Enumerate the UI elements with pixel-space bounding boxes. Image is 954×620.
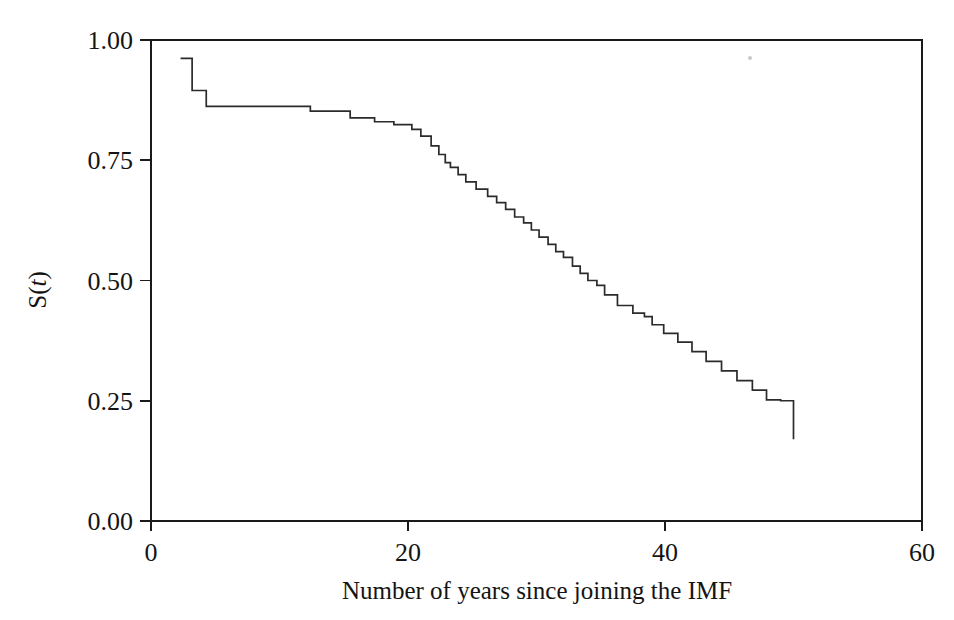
x-axis-ticks: 0204060 xyxy=(145,521,936,567)
svg-text:S(t): S(t) xyxy=(24,271,52,309)
x-tick-label: 20 xyxy=(395,538,421,567)
y-tick-label: 1.00 xyxy=(88,26,134,55)
y-axis-ticks: 0.000.250.500.751.00 xyxy=(88,26,152,536)
plot-frame xyxy=(151,40,922,521)
y-tick-label: 0.00 xyxy=(88,507,134,536)
y-tick-label: 0.50 xyxy=(88,267,134,296)
axes-box xyxy=(151,40,922,521)
x-tick-label: 40 xyxy=(652,538,678,567)
x-axis-title: Number of years since joining the IMF xyxy=(342,577,732,604)
y-axis-title-prefix: S( xyxy=(24,287,52,309)
y-tick-label: 0.75 xyxy=(88,146,134,175)
survival-step-curve xyxy=(181,58,794,439)
y-axis-title-suffix: ) xyxy=(24,271,52,279)
x-tick-label: 0 xyxy=(145,538,158,567)
scan-artifact-speck xyxy=(748,56,752,60)
figure-canvas: 0.000.250.500.751.00 0204060 S(t) Number… xyxy=(0,0,954,620)
x-tick-label: 60 xyxy=(909,538,935,567)
y-tick-label: 0.25 xyxy=(88,387,134,416)
survival-chart: 0.000.250.500.751.00 0204060 S(t) Number… xyxy=(0,0,954,620)
y-axis-title: S(t) xyxy=(24,271,52,309)
